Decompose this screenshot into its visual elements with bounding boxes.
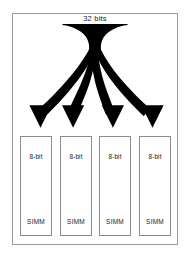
figure-root: 32 bits 8-bit SIMM 8-bit SIMM 8-bit SIMM… bbox=[0, 0, 190, 259]
simm-module-3[interactable]: 8-bit SIMM bbox=[99, 136, 131, 236]
bus-width-label: 32 bits bbox=[0, 15, 190, 23]
module-name-label: SIMM bbox=[140, 219, 170, 226]
simm-module-2[interactable]: 8-bit SIMM bbox=[60, 136, 92, 236]
module-width-label: 8-bit bbox=[140, 154, 170, 161]
module-width-label: 8-bit bbox=[61, 154, 91, 161]
simm-module-1[interactable]: 8-bit SIMM bbox=[20, 136, 52, 236]
module-width-label: 8-bit bbox=[100, 154, 130, 161]
simm-module-4[interactable]: 8-bit SIMM bbox=[139, 136, 171, 236]
module-name-label: SIMM bbox=[100, 219, 130, 226]
module-name-label: SIMM bbox=[61, 219, 91, 226]
module-width-label: 8-bit bbox=[21, 154, 51, 161]
module-name-label: SIMM bbox=[21, 219, 51, 226]
